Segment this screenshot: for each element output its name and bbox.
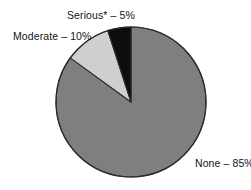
pie-label-moderate: Moderate – 10% [13,30,91,42]
pie-label-serious: Serious* – 5% [67,9,135,21]
pie-label-none: None – 85% [195,157,251,169]
pie-chart: Serious* – 5% Moderate – 10% None – 85% [0,0,251,190]
